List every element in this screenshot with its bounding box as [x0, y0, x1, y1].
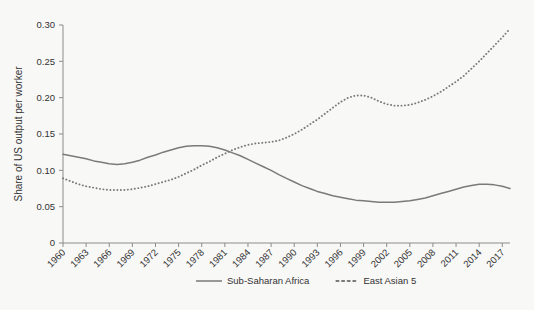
y-tick-label: 0.30: [37, 19, 56, 30]
y-tick-label: 0.20: [37, 92, 56, 103]
x-tick-label: 2002: [368, 247, 391, 270]
x-axis: 1960196319661969197219751978198119841987…: [45, 243, 510, 269]
x-tick-label: 1960: [45, 247, 68, 270]
y-axis-label: Share of US output per worker: [13, 66, 24, 202]
line-chart: Share of US output per worker 00.050.100…: [0, 0, 534, 310]
x-tick-label: 2014: [461, 247, 484, 270]
plot-series-group: [63, 29, 510, 203]
y-axis-label-group: Share of US output per worker: [13, 66, 24, 202]
x-tick-label: 2017: [484, 247, 507, 270]
y-tick-label: 0.10: [37, 165, 56, 176]
x-tick-label: 1963: [68, 247, 91, 270]
x-tick-label: 2011: [438, 247, 460, 269]
x-tick-label: 1993: [299, 247, 322, 270]
x-tick-label: 1984: [230, 247, 253, 270]
x-tick-label: 1975: [160, 247, 183, 270]
x-tick-label: 1978: [183, 247, 206, 270]
y-tick-label: 0.05: [37, 201, 56, 212]
x-tick-label: 1999: [345, 247, 368, 270]
chart-legend: Sub-Saharan AfricaEast Asian 5: [196, 275, 416, 286]
x-tick-label: 1996: [322, 247, 345, 270]
x-tick-label: 1987: [253, 247, 276, 270]
series-line-1: [63, 146, 510, 203]
x-tick-label: 2008: [415, 247, 438, 270]
x-tick-label: 1972: [137, 247, 160, 270]
legend-label-1: Sub-Saharan Africa: [227, 275, 310, 286]
y-axis: 00.050.100.150.200.250.30: [37, 19, 64, 248]
y-tick-label: 0: [50, 237, 55, 248]
x-tick-label: 1981: [207, 247, 230, 270]
x-tick-label: 1966: [91, 247, 114, 270]
x-tick-label: 1969: [114, 247, 137, 270]
chart-figure: Share of US output per worker 00.050.100…: [0, 0, 534, 310]
y-tick-label: 0.15: [37, 128, 56, 139]
series-line-2: [63, 29, 510, 190]
y-tick-label: 0.25: [37, 56, 56, 67]
x-tick-label: 1990: [276, 247, 299, 270]
x-tick-label: 2005: [391, 247, 414, 270]
legend-label-2: East Asian 5: [363, 275, 416, 286]
